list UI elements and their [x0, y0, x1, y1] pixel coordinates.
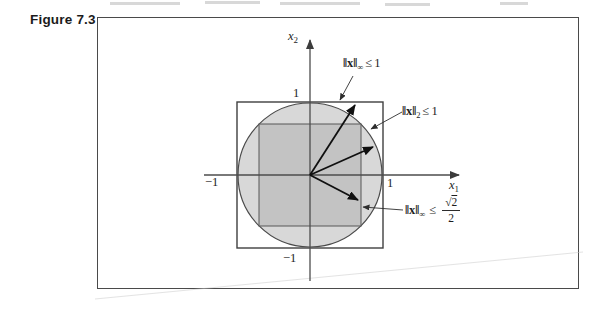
two-norm-annotation: ‖x‖2≤1: [402, 105, 438, 118]
y-axis-label-subscript: 2: [294, 35, 299, 45]
x-axis-label: x1: [449, 179, 459, 192]
y-tick-minus-one: −1: [283, 252, 296, 265]
x-tick-plus-one: 1: [387, 177, 393, 190]
inner-norm-expr: ‖x‖: [405, 203, 419, 217]
two-norm-value: 1: [431, 104, 437, 118]
book-figure-page: Figure 7.3: [0, 0, 600, 310]
norm-balls-diagram: [0, 0, 600, 310]
two-norm-relation: ≤: [421, 104, 432, 118]
y-axis-label: x2: [288, 30, 298, 43]
y-axis-label-base: x: [288, 29, 294, 43]
two-norm-expr: ‖x‖: [402, 104, 416, 118]
scan-crease-line: [95, 252, 583, 299]
inf-norm-relation: ≤: [363, 56, 374, 70]
x-axis-label-subscript: 1: [455, 184, 460, 194]
inf-norm-value: 1: [374, 56, 380, 70]
sqrt-radicand: 2: [451, 196, 457, 208]
fraction-denominator: 2: [442, 210, 460, 225]
sqrt2-over-2-fraction: √2 2: [442, 196, 460, 224]
fraction-numerator: √2: [443, 196, 459, 210]
two-norm-subscript: 2: [416, 110, 420, 120]
inf-norm-expr: ‖x‖: [343, 56, 357, 70]
inner-norm-relation: ≤: [427, 204, 438, 217]
inner-norm-expr-group: ‖x‖∞: [405, 204, 425, 217]
x-axis-label-base: x: [449, 178, 455, 192]
x-tick-minus-one: −1: [205, 176, 218, 189]
inner-norm-annotation: ‖x‖∞ ≤ √2 2: [405, 196, 460, 224]
inner-norm-subscript: ∞: [419, 209, 425, 219]
inf-norm-subscript: ∞: [357, 62, 363, 72]
inf-norm-annotation: ‖x‖∞≤1: [343, 57, 381, 70]
leader-arrow-inf-norm: [340, 76, 353, 100]
y-tick-plus-one: 1: [293, 87, 299, 100]
